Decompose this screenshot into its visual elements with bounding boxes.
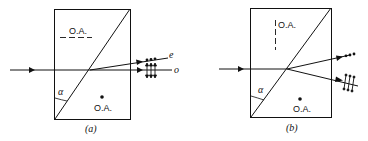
optic-axis-label-top-b: O.A. xyxy=(278,20,296,30)
arrow-icon xyxy=(238,66,244,72)
panel-a: o e O.A. O.A. α (a) xyxy=(10,9,179,135)
dot-polarization-icon xyxy=(146,57,157,61)
optic-axis-dot-icon xyxy=(298,97,302,101)
angle-arc-b xyxy=(251,96,264,100)
prism-diagram: o e O.A. O.A. α (a) xyxy=(0,0,368,141)
optic-axis-label-bottom-b: O.A. xyxy=(293,104,311,114)
arrow-icon xyxy=(335,77,343,83)
ray-label-e: e xyxy=(169,49,174,60)
optic-axis-dot-icon xyxy=(100,95,104,99)
angle-label-a: α xyxy=(58,86,64,97)
lower-ray-b xyxy=(287,69,358,86)
ray-label-o: o xyxy=(174,64,179,75)
dot-polarization-icon xyxy=(345,53,356,58)
tilted-polarization-icon xyxy=(343,74,355,92)
optic-axis-label-top-a: O.A. xyxy=(69,26,87,36)
vertical-polarization-icon xyxy=(146,63,157,78)
optic-axis-label-bottom-a: O.A. xyxy=(94,103,112,113)
panel-caption-b: (b) xyxy=(286,122,298,134)
panel-b: O.A. O.A. α (b) xyxy=(219,8,358,134)
arrow-icon xyxy=(137,67,143,73)
e-ray-a xyxy=(90,58,168,70)
arrow-icon xyxy=(29,67,35,73)
prism-a-interface xyxy=(55,9,130,119)
angle-arc-a xyxy=(55,98,67,101)
panel-caption-a: (a) xyxy=(85,123,97,135)
angle-label-b: α xyxy=(258,84,264,95)
